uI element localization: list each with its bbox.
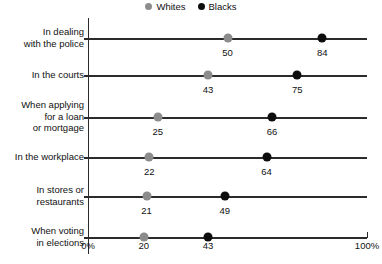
- x-axis-tick: [367, 232, 368, 238]
- row-baseline: [88, 157, 367, 159]
- data-point-whites: [145, 153, 154, 162]
- data-point-blacks: [268, 113, 277, 122]
- x-axis-tick-label: 100%: [355, 241, 379, 251]
- chart-legend: Whites Blacks: [0, 2, 382, 12]
- data-point-blacks: [262, 153, 271, 162]
- x-axis-tick-label: 0%: [81, 241, 95, 251]
- blacks-marker-icon: [198, 3, 205, 10]
- value-label-blacks: 49: [219, 206, 230, 216]
- x-axis-tick-label: 20: [139, 241, 150, 251]
- data-point-whites: [153, 113, 162, 122]
- dot-plot-chart: Whites Blacks In dealing with the police…: [0, 0, 382, 264]
- row-baseline: [88, 117, 367, 119]
- plot-area: In dealing with the police5084In the cou…: [0, 16, 382, 264]
- x-axis-tick: [88, 232, 89, 238]
- value-label-whites: 50: [222, 48, 233, 58]
- legend-label-blacks: Blacks: [209, 2, 237, 12]
- legend-item-whites: Whites: [145, 2, 185, 12]
- category-label: In stores or restaurants: [36, 184, 84, 207]
- row-baseline: [88, 75, 367, 77]
- value-label-whites: 25: [152, 127, 163, 137]
- data-point-whites: [223, 34, 232, 43]
- value-label-blacks: 64: [261, 167, 272, 177]
- data-point-blacks: [318, 34, 327, 43]
- value-label-blacks: 66: [267, 127, 278, 137]
- y-axis-line: [88, 18, 89, 254]
- legend-label-whites: Whites: [156, 2, 185, 12]
- data-point-blacks: [293, 71, 302, 80]
- category-label: When voting in elections: [31, 225, 84, 248]
- category-label: When applying for a loan or mortgage: [21, 99, 84, 134]
- data-point-whites: [142, 192, 151, 201]
- x-axis-tick-label: 43: [203, 241, 214, 251]
- category-label: In dealing with the police: [24, 26, 84, 49]
- value-label-blacks: 84: [317, 48, 328, 58]
- category-label: In the courts: [32, 69, 84, 81]
- whites-marker-icon: [145, 3, 152, 10]
- value-label-whites: 43: [203, 85, 214, 95]
- legend-item-blacks: Blacks: [198, 2, 237, 12]
- data-point-whites: [203, 71, 212, 80]
- data-point-blacks: [220, 192, 229, 201]
- value-label-whites: 21: [141, 206, 152, 216]
- value-label-blacks: 75: [292, 85, 303, 95]
- category-label: In the workplace: [15, 151, 84, 163]
- value-label-whites: 22: [144, 167, 155, 177]
- row-baseline: [88, 237, 367, 239]
